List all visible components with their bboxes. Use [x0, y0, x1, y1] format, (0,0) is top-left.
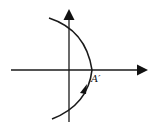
curve-direction-arrow-icon	[80, 84, 87, 94]
x-axis-arrow-icon	[137, 65, 148, 76]
curve-upper-branch	[49, 18, 92, 70]
y-axis-arrow-icon	[64, 9, 75, 20]
curve-lower-branch	[52, 70, 92, 119]
point-label-a-prime: A′	[90, 73, 101, 84]
diagram-canvas: A′	[0, 0, 156, 126]
